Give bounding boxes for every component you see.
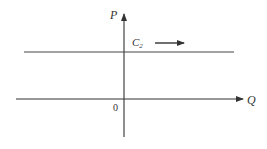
origin-label: 0 bbox=[113, 103, 118, 113]
economics-diagram: P Q 0 C2 bbox=[0, 0, 267, 149]
c2-label-subscript: 2 bbox=[139, 42, 143, 50]
q-axis-label: Q bbox=[247, 94, 256, 106]
c2-curve-label: C2 bbox=[132, 37, 143, 50]
diagram-canvas bbox=[0, 0, 267, 149]
p-axis-label: P bbox=[110, 9, 117, 21]
